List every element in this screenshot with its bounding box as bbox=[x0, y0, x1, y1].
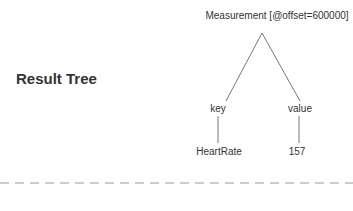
value-node: value bbox=[288, 103, 312, 114]
heartrate-leaf: HeartRate bbox=[196, 146, 242, 157]
edge-root-value bbox=[262, 33, 300, 101]
edge-root-key bbox=[226, 33, 262, 101]
key-node: key bbox=[210, 103, 226, 114]
value-157-leaf: 157 bbox=[289, 146, 306, 157]
root-node: Measurement [@offset=600000] bbox=[205, 10, 348, 21]
